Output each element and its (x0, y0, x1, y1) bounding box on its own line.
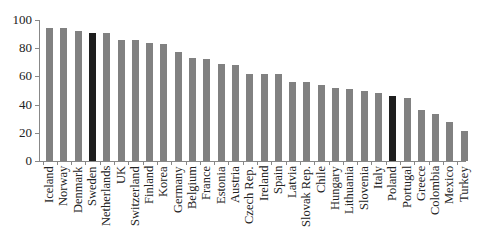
x-tick-label: France (200, 166, 213, 200)
bar-slovenia (361, 91, 368, 162)
x-tick-label: Austria (229, 166, 242, 203)
bar-chile (318, 85, 325, 161)
x-tick-label: Norway (57, 166, 70, 206)
x-tick-label: Finland (143, 166, 156, 204)
x-tick-label: Iceland (43, 166, 56, 203)
bar-germany (175, 52, 182, 161)
y-tick-label: 80 (4, 41, 32, 55)
x-tick-mark (128, 161, 129, 165)
x-tick-mark (457, 161, 458, 165)
bar-switzerland (132, 40, 139, 161)
x-tick-mark (271, 161, 272, 165)
x-tick-mark (357, 161, 358, 165)
bar-turkey (461, 131, 468, 161)
x-tick-label: Chile (315, 166, 328, 193)
y-tick-label: 20 (4, 126, 32, 140)
x-tick-mark (400, 161, 401, 165)
x-tick-mark (171, 161, 172, 165)
x-tick-label: Germany (172, 166, 185, 213)
x-tick-mark (157, 161, 158, 165)
bar-colombia (432, 114, 439, 161)
y-tick-mark (35, 76, 40, 77)
x-tick-mark (114, 161, 115, 165)
x-tick-label: Korea (157, 166, 170, 197)
x-tick-mark (43, 161, 44, 165)
x-axis (39, 161, 466, 162)
bar-hungary (332, 88, 339, 161)
x-tick-mark (100, 161, 101, 165)
x-tick-label: Denmark (72, 166, 85, 213)
x-tick-label: UK (115, 166, 128, 184)
bar-netherlands (103, 33, 110, 161)
bar-estonia (218, 64, 225, 161)
x-tick-mark (243, 161, 244, 165)
y-tick-mark (35, 105, 40, 106)
y-tick-label: 60 (4, 69, 32, 83)
bar-mexico (446, 122, 453, 161)
x-tick-label: Czech Rep. (243, 166, 256, 224)
x-tick-label: Spain (272, 166, 285, 194)
bar-korea (160, 44, 167, 161)
y-tick-mark (35, 161, 40, 162)
bar-belgium (189, 58, 196, 161)
x-tick-mark (200, 161, 201, 165)
bar-italy (375, 93, 382, 161)
x-tick-mark (371, 161, 372, 165)
bar-finland (146, 43, 153, 161)
x-tick-label: Turkey (458, 166, 471, 202)
x-tick-mark (314, 161, 315, 165)
x-tick-mark (228, 161, 229, 165)
x-tick-mark (257, 161, 258, 165)
bar-france (203, 59, 210, 161)
x-tick-mark (329, 161, 330, 165)
x-tick-mark (414, 161, 415, 165)
x-tick-label: Slovenia (358, 166, 371, 210)
bar-czech-rep (246, 74, 253, 161)
x-tick-label: Greece (415, 166, 428, 201)
x-tick-mark (143, 161, 144, 165)
bar-slovak-rep (303, 82, 310, 161)
y-tick-mark (35, 133, 40, 134)
x-tick-mark (57, 161, 58, 165)
x-tick-label: Ireland (258, 166, 271, 201)
y-tick-mark (35, 48, 40, 49)
x-tick-mark (300, 161, 301, 165)
bar-chart: 020406080100 IcelandNorwayDenmarkSwedenN… (0, 0, 477, 238)
x-tick-label: Netherlands (100, 166, 113, 226)
bar-spain (275, 74, 282, 161)
x-tick-mark (186, 161, 187, 165)
x-tick-label: Estonia (215, 167, 228, 205)
bar-sweden (89, 33, 96, 161)
bar-uk (118, 40, 125, 161)
bar-latvia (289, 82, 296, 161)
x-tick-label: Latvia (286, 166, 299, 198)
bar-denmark (75, 31, 82, 161)
bar-ireland (261, 74, 268, 161)
y-tick-label: 0 (4, 154, 32, 168)
x-tick-mark (85, 161, 86, 165)
bar-iceland (46, 28, 53, 161)
x-tick-label: Hungary (329, 166, 342, 210)
x-tick-label: Mexico (443, 166, 456, 204)
x-tick-label: Slovak Rep. (300, 166, 313, 227)
x-tick-label: Poland (386, 166, 399, 201)
x-tick-mark (71, 161, 72, 165)
bar-portugal (404, 98, 411, 161)
x-tick-mark (429, 161, 430, 165)
y-axis (39, 20, 40, 161)
y-tick-label: 40 (4, 98, 32, 112)
x-tick-label: Portugal (401, 166, 414, 208)
x-tick-mark (386, 161, 387, 165)
x-tick-label: Belgium (186, 166, 199, 209)
bar-norway (60, 28, 67, 161)
x-tick-mark (214, 161, 215, 165)
x-tick-label: Colombia (429, 166, 442, 215)
x-tick-mark (443, 161, 444, 165)
y-tick-mark (35, 20, 40, 21)
x-tick-label: Sweden (86, 166, 99, 206)
x-tick-label: Italy (372, 166, 385, 189)
bar-lithuania (346, 89, 353, 161)
x-tick-mark (286, 161, 287, 165)
bar-greece (418, 110, 425, 161)
bar-poland (389, 96, 396, 161)
